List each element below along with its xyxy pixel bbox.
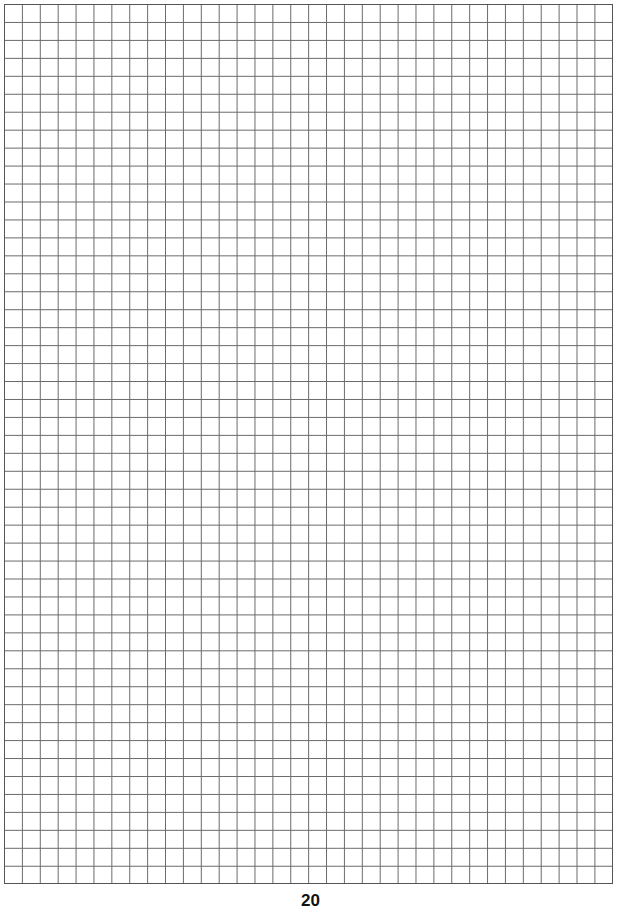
grid-paper [4,4,613,884]
page-number: 20 [0,891,621,910]
